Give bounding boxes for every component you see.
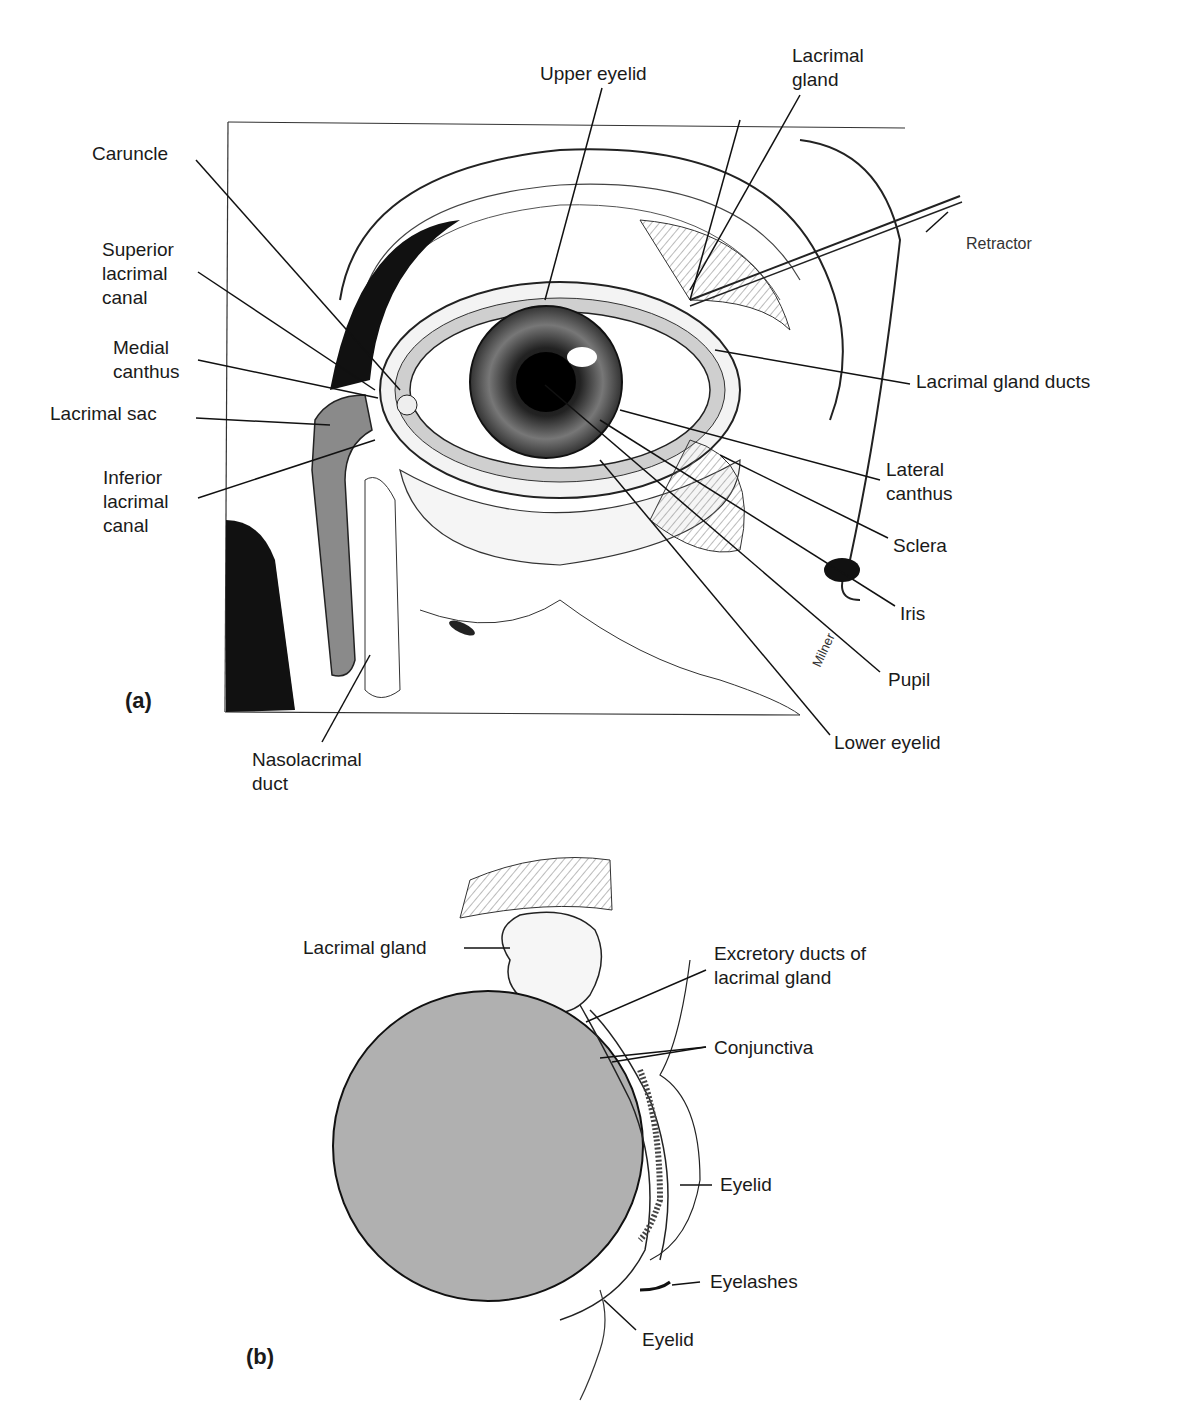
label-superior-line1: Superior [102,238,174,262]
label-upper-eyelid: Upper eyelid [540,62,647,86]
label-excretory-line1: Excretory ducts of [714,942,866,966]
panel-b-tag: (b) [246,1344,274,1370]
label-superior-lacrimal-canal: Superior lacrimal canal [102,238,174,310]
label-caruncle: Caruncle [92,142,168,166]
label-conjunctiva: Conjunctiva [714,1036,813,1060]
label-b-lacrimal-gland: Lacrimal gland [303,936,427,960]
label-nasolacrimal-duct: Nasolacrimal duct [252,748,362,796]
label-lateral-canthus: Lateral canthus [886,458,953,506]
label-lacrimal-gland-ducts: Lacrimal gland ducts [916,370,1090,394]
label-pupil: Pupil [888,668,930,692]
label-lacrimal-gland-line2: gland [792,68,864,92]
panel-a-tag: (a) [125,688,152,714]
label-naso-line2: duct [252,772,362,796]
label-sclera: Sclera [893,534,947,558]
eye-anatomy-illustration: Milner [0,0,1197,1421]
label-retractor: Retractor [966,232,1032,256]
label-superior-line3: canal [102,286,174,310]
label-lateral-line2: canthus [886,482,953,506]
label-lower-eyelid: Lower eyelid [834,731,941,755]
label-inferior-line3: canal [103,514,168,538]
label-inferior-line2: lacrimal [103,490,168,514]
label-medial-line2: canthus [113,360,180,384]
label-eyelashes: Eyelashes [710,1270,798,1294]
label-lacrimal-gland: Lacrimal gland [792,44,864,92]
label-lacrimal-gland-line1: Lacrimal [792,44,864,68]
label-inferior-lacrimal-canal: Inferior lacrimal canal [103,466,168,538]
label-excretory-line2: lacrimal gland [714,966,866,990]
label-eyelid-upper: Eyelid [720,1173,772,1197]
label-superior-line2: lacrimal [102,262,174,286]
label-lacrimal-sac: Lacrimal sac [50,402,157,426]
label-excretory-ducts: Excretory ducts of lacrimal gland [714,942,866,990]
artist-signature: Milner [809,630,838,669]
label-inferior-line1: Inferior [103,466,168,490]
label-iris: Iris [900,602,925,626]
label-naso-line1: Nasolacrimal [252,748,362,772]
label-lateral-line1: Lateral [886,458,953,482]
label-medial-canthus: Medial canthus [113,336,180,384]
label-eyelid-lower: Eyelid [642,1328,694,1352]
label-medial-line1: Medial [113,336,180,360]
panel-a-drawing: Milner [225,122,962,715]
